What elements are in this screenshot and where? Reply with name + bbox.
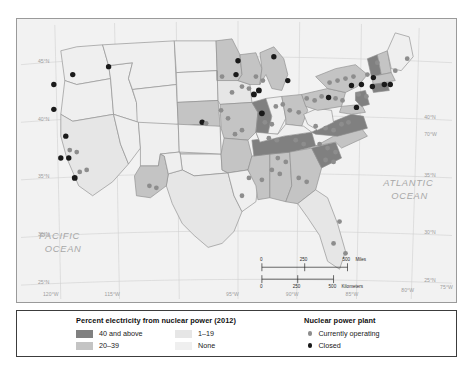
lon-label-right: 70°W [424,131,437,137]
scale-km-tick: 500 [329,284,337,289]
plant-operating [333,96,338,101]
plant-closed [70,72,75,77]
legend-plant-title: Nuclear power plant [304,316,376,325]
plant-operating [317,142,322,147]
legend-class-label: 40 and above [99,329,143,338]
legend-class-label: 20–39 [99,341,119,350]
plant-closed [388,82,393,87]
plant-operating [301,142,306,147]
plant-closed [371,75,376,80]
plant-closed [285,78,290,83]
plant-operating [283,160,288,165]
state-arkansas [221,138,252,173]
swatch-none [175,342,192,350]
pacific-ocean-label-line2: OCEAN [45,244,82,254]
swatch-1-19 [175,330,192,338]
swatch-40-and-above [76,330,93,338]
plant-operating [365,72,370,77]
map-svg: 45°N 40°N 35°N 30°N 25°N 40°N 70°W 35°N … [17,19,456,302]
plant-operating [74,150,79,155]
map-panel: 45°N 40°N 35°N 30°N 25°N 40°N 70°W 35°N … [16,18,457,303]
plant-operating [233,132,238,137]
lon-label: 90°W [286,291,299,297]
legend-class-label: 1–19 [198,329,214,338]
plant-operating [154,185,159,190]
scale-bar: 0 250 500 Miles 0 250 500 Kilometers [260,257,367,289]
plant-operating [337,219,342,224]
state-missouri [220,102,258,140]
plant-operating [204,121,209,126]
legend-class-label: None [198,341,215,350]
lon-label: 115°W [105,291,121,297]
legend-class-none: None [175,341,215,350]
legend-class-1-19: 1–19 [175,329,214,338]
plant-operating [273,104,278,109]
plant-operating [304,179,309,184]
plant-operating [325,146,330,151]
plant-operating [333,150,338,155]
plant-closed [271,54,276,59]
plant-operating [247,175,252,180]
plant-operating [240,84,245,89]
lon-label: 75°W [440,284,453,290]
plant-operating [287,108,292,113]
plant-operating [393,68,398,73]
states-layer [61,33,413,269]
plant-operating [331,128,336,133]
lat-label-right: 30°N [424,229,436,235]
state-south-dakota [176,71,218,103]
plant-operating [331,160,336,165]
plant-closed [51,107,56,112]
plant-operating [67,148,72,153]
plant-closed [256,88,262,94]
plant-operating [351,74,356,79]
plant-closed [382,82,387,87]
plant-operating [147,183,152,188]
plant-operating [313,124,318,129]
plant-closed [251,92,257,98]
plant-operating [254,74,259,79]
lon-label: 120°W [43,291,59,297]
plant-operating [296,175,301,180]
plant-operating [275,156,280,161]
plant-operating [405,56,410,61]
plant-closed [72,175,78,181]
plant-operating [346,120,351,125]
scale-miles-tick: 500 [343,257,351,262]
plant-closed [354,105,359,110]
legend-plant-closed: Closed [304,341,341,350]
closed-dot-icon [308,343,312,347]
plant-closed [326,95,331,100]
scale-miles-tick: 250 [300,257,308,262]
plant-operating [375,60,380,65]
nuclear-power-map-figure: 45°N 40°N 35°N 30°N 25°N 40°N 70°W 35°N … [0,0,473,368]
plant-closed [359,82,364,87]
plant-operating [277,172,282,177]
swatch-20-39 [76,342,93,350]
state-michigan [260,47,288,91]
plant-closed [233,72,238,77]
lat-label: 40°N [38,116,50,122]
plant-operating [327,80,332,85]
plant-operating [240,193,245,198]
state-wyoming [132,85,178,129]
plant-operating [219,108,224,113]
plant-operating [343,251,348,256]
map-legend: Percent electricity from nuclear power (… [16,310,457,357]
lat-label: 25°N [38,279,50,285]
state-new-york [316,65,368,93]
legend-plant-operating: Currently operating [304,329,380,338]
scale-miles-tick: 0 [260,257,263,262]
legend-plant-label: Closed [318,341,340,350]
lat-label: 45°N [38,58,50,64]
plant-operating [84,168,89,173]
plant-operating [280,102,285,107]
plant-operating [230,90,235,95]
plant-operating [296,110,301,115]
state-oregon [61,79,114,122]
plant-operating [77,170,82,175]
plant-closed [66,155,71,160]
atlantic-ocean-label-line2: OCEAN [391,191,428,201]
plant-operating [312,98,317,103]
plant-operating [339,122,344,127]
